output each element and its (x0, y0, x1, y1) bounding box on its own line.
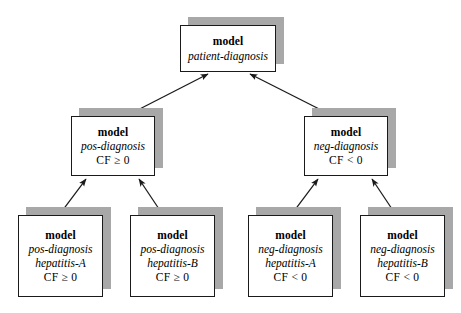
node-neg-diagnosis-hepatitis-a[interactable]: model neg-diagnosis hepatitis-A CF < 0 (248, 215, 333, 297)
node-label-name-2: hepatitis-B (377, 256, 427, 270)
node-label-cf: CF < 0 (386, 270, 420, 284)
node-pos-diagnosis-hepatitis-b[interactable]: model pos-diagnosis hepatitis-B CF ≥ 0 (130, 215, 215, 297)
node-label-model: model (45, 228, 76, 242)
node-label-cf: CF ≥ 0 (44, 270, 78, 284)
node-pos-diagnosis-hepatitis-a[interactable]: model pos-diagnosis hepatitis-A CF ≥ 0 (18, 215, 103, 297)
node-label-model: model (331, 125, 362, 139)
node-label-cf: CF < 0 (274, 270, 308, 284)
node-label-name-2: hepatitis-A (265, 256, 315, 270)
node-label-name-2: hepatitis-A (35, 256, 85, 270)
node-neg-diagnosis[interactable]: model neg-diagnosis CF < 0 (304, 116, 388, 176)
model-hierarchy-diagram: model patient-diagnosis model pos-diagno… (0, 0, 461, 313)
node-label-model: model (98, 125, 129, 139)
node-label-cf: CF < 0 (329, 153, 363, 167)
node-label-cf: CF ≥ 0 (96, 153, 130, 167)
node-label-name: neg-diagnosis (258, 242, 323, 256)
node-label-model: model (213, 34, 244, 48)
node-label-name: patient-diagnosis (188, 49, 268, 63)
node-label-name: neg-diagnosis (370, 242, 435, 256)
node-label-name-2: hepatitis-B (147, 256, 197, 270)
node-label-model: model (157, 228, 188, 242)
node-label-name: pos-diagnosis (29, 242, 93, 256)
node-label-model: model (275, 228, 306, 242)
node-patient-diagnosis[interactable]: model patient-diagnosis (180, 25, 276, 72)
node-label-cf: CF ≥ 0 (156, 270, 190, 284)
node-label-name: pos-diagnosis (141, 242, 205, 256)
node-pos-diagnosis[interactable]: model pos-diagnosis CF ≥ 0 (71, 116, 155, 176)
node-label-model: model (387, 228, 418, 242)
node-label-name: neg-diagnosis (314, 139, 379, 153)
node-label-name: pos-diagnosis (81, 139, 145, 153)
node-neg-diagnosis-hepatitis-b[interactable]: model neg-diagnosis hepatitis-B CF < 0 (360, 215, 445, 297)
